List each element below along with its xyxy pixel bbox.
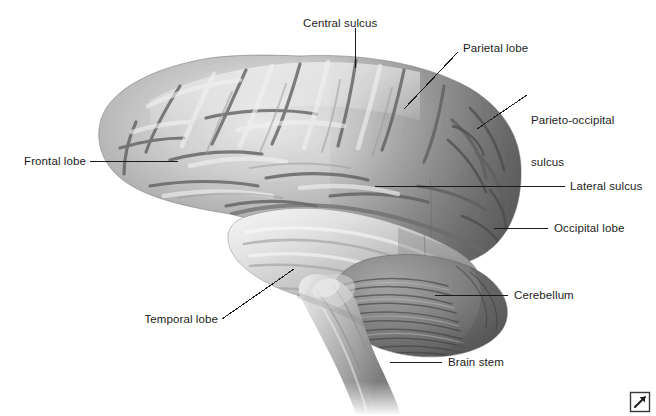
label-cerebellum: Cerebellum [514, 288, 574, 302]
label-lateral-sulcus: Lateral sulcus [570, 179, 642, 193]
label-temporal-lobe: Temporal lobe [132, 312, 218, 326]
label-parietal-lobe: Parietal lobe [463, 41, 528, 55]
leader-cerebellum [435, 295, 508, 296]
label-parieto-occipital-sulcus-line1: Parieto-occipital [531, 113, 615, 127]
brain-anatomy-figure: Central sulcus Parietal lobe Parieto-occ… [0, 0, 656, 416]
leader-frontal-lobe [90, 161, 178, 162]
leader-occipital-lobe [494, 228, 548, 229]
brain-illustration [0, 0, 656, 416]
label-brain-stem: Brain stem [448, 355, 504, 369]
leader-brain-stem [390, 362, 442, 363]
leader-central-sulcus [355, 28, 356, 68]
expand-arrow-icon [631, 393, 650, 412]
label-occipital-lobe: Occipital lobe [554, 221, 624, 235]
label-parieto-occipital-sulcus-line2: sulcus [531, 155, 615, 169]
label-frontal-lobe: Frontal lobe [8, 154, 86, 168]
label-central-sulcus: Central sulcus [303, 16, 377, 30]
